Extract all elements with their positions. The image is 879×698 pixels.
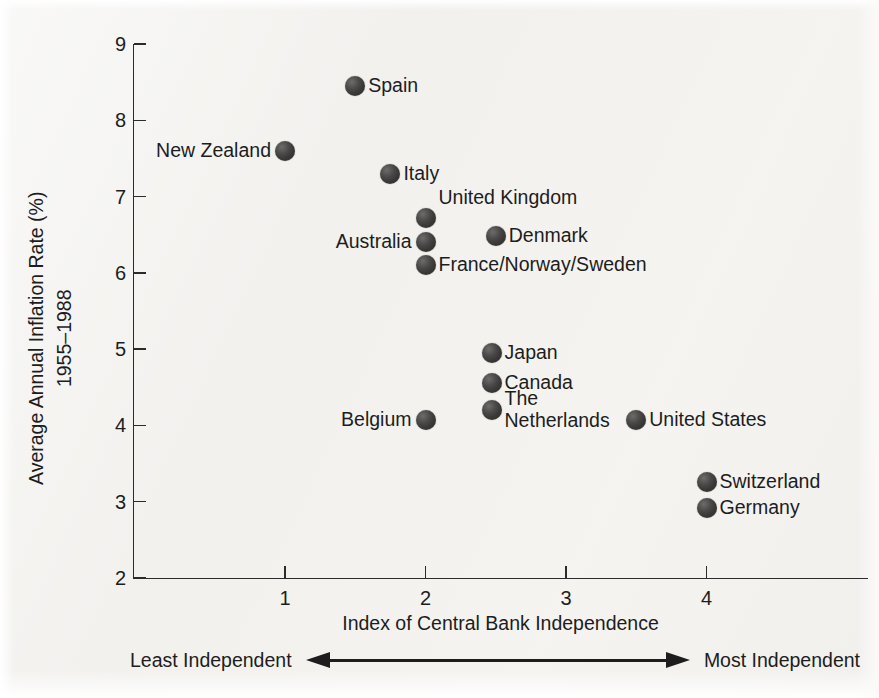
- y-tick: [134, 120, 146, 121]
- data-point-marker: [275, 141, 295, 161]
- data-point-marker: [482, 400, 502, 420]
- data-point-marker: [380, 164, 400, 184]
- data-point-marker: [416, 208, 436, 228]
- arrow-shaft: [328, 659, 668, 662]
- double-arrow-icon: [306, 650, 690, 670]
- data-point-label: United States: [649, 409, 766, 431]
- most-independent-label: Most Independent: [704, 649, 860, 672]
- y-axis-title-line2: 1955–1988: [50, 103, 78, 573]
- data-point-label: France/Norway/Sweden: [439, 254, 647, 276]
- data-point-marker: [416, 410, 436, 430]
- y-tick: [134, 501, 146, 502]
- data-point-label: Germany: [720, 497, 800, 519]
- data-point-label: United Kingdom: [439, 187, 578, 209]
- data-point-label: Denmark: [509, 225, 588, 247]
- paper-edge-left: [0, 0, 14, 698]
- y-tick-label: 8: [100, 110, 126, 130]
- data-point-marker: [697, 472, 717, 492]
- x-tick: [284, 566, 285, 578]
- data-point-label: The Netherlands: [505, 388, 610, 432]
- data-point-label: Switzerland: [720, 471, 821, 493]
- scatter-chart-figure: 23456789 1234 SpainNew ZealandItalyUnite…: [0, 0, 879, 698]
- data-point-label: Australia: [336, 231, 412, 253]
- data-point-marker: [416, 232, 436, 252]
- x-axis-line: [133, 578, 868, 579]
- y-tick: [134, 196, 146, 197]
- y-tick: [134, 577, 146, 578]
- arrow-head-right-icon: [666, 652, 690, 668]
- paper-edge-right: [857, 0, 879, 698]
- y-tick: [134, 43, 146, 44]
- arrow-head-left-icon: [306, 652, 330, 668]
- x-tick: [425, 566, 426, 578]
- y-tick-label: 9: [100, 34, 126, 54]
- data-point-marker: [345, 76, 365, 96]
- data-point-marker: [482, 373, 502, 393]
- y-tick-label: 4: [100, 415, 126, 435]
- data-point-marker: [482, 343, 502, 363]
- data-point-label: Spain: [368, 75, 418, 97]
- data-point-label: Japan: [505, 342, 558, 364]
- y-axis-title-line1: Average Annual Inflation Rate (%): [22, 103, 50, 573]
- paper-edge-bottom: [0, 670, 879, 698]
- data-point-marker: [697, 498, 717, 518]
- y-axis-title: Average Annual Inflation Rate (%) 1955–1…: [22, 103, 79, 573]
- data-point-label: Belgium: [341, 409, 411, 431]
- x-axis-title: Index of Central Bank Independence: [133, 612, 868, 635]
- y-tick: [134, 348, 146, 349]
- data-point-label: New Zealand: [156, 140, 271, 162]
- y-tick-label: 3: [100, 492, 126, 512]
- x-tick-label: 2: [411, 588, 441, 608]
- x-tick-label: 1: [270, 588, 300, 608]
- paper-edge-top: [0, 0, 879, 10]
- y-tick-label: 6: [100, 263, 126, 283]
- data-point-marker: [486, 226, 506, 246]
- data-point-marker: [626, 410, 646, 430]
- x-tick-label: 3: [551, 588, 581, 608]
- y-tick-label: 5: [100, 339, 126, 359]
- data-point-marker: [416, 255, 436, 275]
- data-point-label: Italy: [403, 163, 439, 185]
- least-independent-label: Least Independent: [130, 649, 292, 672]
- y-tick: [134, 425, 146, 426]
- y-tick-label: 2: [100, 568, 126, 588]
- x-tick: [706, 566, 707, 578]
- y-tick: [134, 272, 146, 273]
- y-tick-label: 7: [100, 187, 126, 207]
- y-axis-line: [133, 44, 134, 579]
- x-tick-label: 4: [692, 588, 722, 608]
- independence-direction-legend: Least Independent Most Independent: [130, 646, 860, 674]
- x-tick: [565, 566, 566, 578]
